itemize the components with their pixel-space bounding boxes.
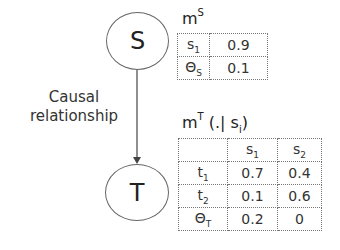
table-s-row-label: s1 bbox=[178, 34, 210, 57]
table-t-row-label: ΘT bbox=[179, 208, 228, 231]
table-t-cell: 0.1 bbox=[228, 185, 278, 208]
table-t-header-cell: s1 bbox=[228, 139, 278, 162]
table-t-cell: 0.2 bbox=[228, 208, 278, 231]
table-row: ΘS 0.1 bbox=[178, 57, 268, 80]
table-t-title-end: ) bbox=[242, 113, 248, 132]
table-t-title-sup: T bbox=[198, 111, 204, 122]
edge-label-line2: relationship bbox=[10, 107, 138, 126]
table-s-cell: 0.1 bbox=[210, 57, 268, 80]
table-t-header-cell bbox=[179, 139, 228, 162]
table-t-title-base: m bbox=[182, 113, 198, 132]
table-t-cell: 0.6 bbox=[278, 185, 322, 208]
table-t-row-label: t2 bbox=[179, 185, 228, 208]
table-t-row-label: t1 bbox=[179, 162, 228, 185]
table-t: s1 s2 t1 0.7 0.4 t2 0.1 0.6 ΘT 0.2 0 bbox=[178, 138, 322, 231]
table-t-cell: 0.4 bbox=[278, 162, 322, 185]
table-t-header-cell: s2 bbox=[278, 139, 322, 162]
table-s-cell: 0.9 bbox=[210, 34, 268, 57]
table-t-title-rest: (.| s bbox=[204, 113, 239, 132]
table-row: s1 0.9 bbox=[178, 34, 268, 57]
table-row: t2 0.1 0.6 bbox=[179, 185, 322, 208]
table-s-title-sup: S bbox=[198, 7, 204, 18]
table-row: t1 0.7 0.4 bbox=[179, 162, 322, 185]
table-s-title: mS bbox=[182, 9, 204, 28]
edge-label: Causal relationship bbox=[10, 88, 138, 126]
table-header-row: s1 s2 bbox=[179, 139, 322, 162]
table-s-row-label: ΘS bbox=[178, 57, 210, 80]
node-t: T bbox=[105, 164, 169, 221]
table-s: s1 0.9 ΘS 0.1 bbox=[177, 33, 268, 80]
table-t-cell: 0 bbox=[278, 208, 322, 231]
table-row: ΘT 0.2 0 bbox=[179, 208, 322, 231]
table-s-title-base: m bbox=[182, 9, 198, 28]
node-t-label: T bbox=[130, 179, 145, 207]
table-t-title: mT (.| si) bbox=[182, 113, 248, 135]
table-t-cell: 0.7 bbox=[228, 162, 278, 185]
edge-label-line1: Causal bbox=[10, 88, 138, 107]
